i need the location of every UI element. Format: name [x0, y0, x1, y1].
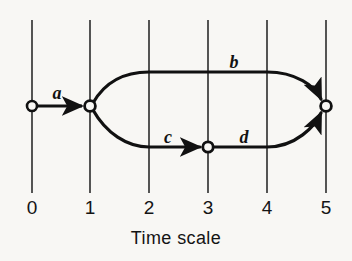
node-3[interactable]	[203, 142, 213, 152]
edge-b-path	[93, 72, 321, 103]
axis-title: Time scale	[0, 229, 352, 247]
edge-label-a: a	[45, 84, 69, 102]
node-5[interactable]	[321, 101, 332, 112]
tick-label-1: 1	[77, 198, 103, 217]
tick-label-4: 4	[254, 198, 280, 217]
tick-label-2: 2	[136, 198, 162, 217]
tick-label-5: 5	[313, 198, 339, 217]
node-1[interactable]	[85, 101, 96, 112]
tick-label-0: 0	[19, 198, 45, 217]
edge-c-path	[93, 110, 200, 147]
node-0[interactable]	[27, 101, 37, 111]
activity-network-diagram: a b c d 0 1 2 3 4 5 Time scale	[0, 0, 352, 261]
edge-label-c: c	[156, 128, 180, 146]
tick-label-3: 3	[195, 198, 221, 217]
edge-label-b: b	[222, 53, 246, 71]
edge-label-d: d	[232, 128, 256, 146]
